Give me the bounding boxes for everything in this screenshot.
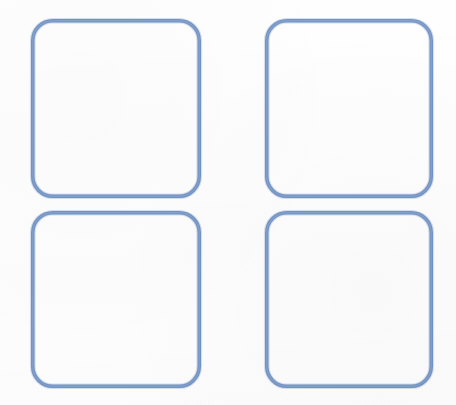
rounded-square-icon	[31, 211, 201, 388]
rounded-square-icon	[265, 19, 433, 198]
frame-top-right[interactable]	[265, 19, 433, 198]
frame-bottom-right[interactable]	[265, 211, 433, 388]
frame-top-left[interactable]	[31, 19, 201, 198]
page-canvas	[0, 0, 456, 405]
rounded-square-icon	[31, 19, 201, 198]
rounded-square-icon	[265, 211, 433, 388]
frame-grid	[0, 0, 456, 405]
frame-bottom-left[interactable]	[31, 211, 201, 388]
